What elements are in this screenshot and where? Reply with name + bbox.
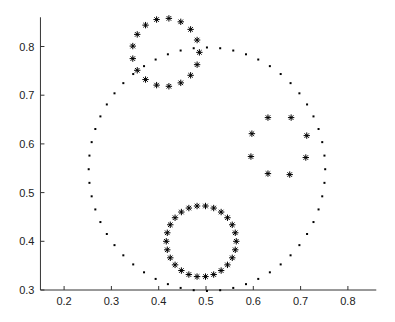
star-marker — [164, 230, 170, 236]
dot-marker — [122, 82, 124, 84]
dot-marker — [167, 283, 169, 285]
star-marker — [210, 271, 216, 277]
star-marker — [153, 16, 159, 22]
star-marker — [196, 49, 202, 55]
star-marker — [232, 230, 238, 236]
star-marker — [166, 83, 172, 89]
dot-marker — [321, 195, 323, 197]
star-marker — [178, 19, 184, 25]
dot-marker — [298, 244, 300, 246]
dot-marker — [99, 221, 101, 223]
star-marker — [229, 222, 235, 228]
star-marker — [233, 238, 239, 244]
dot-marker — [290, 254, 292, 256]
dot-marker — [232, 287, 234, 289]
dot-marker — [106, 103, 108, 105]
y-tick-label: 0.4 — [19, 235, 34, 247]
dot-marker — [312, 221, 314, 223]
star-marker — [178, 209, 184, 215]
x-tick-label: 0.3 — [104, 295, 119, 307]
dot-marker — [206, 46, 208, 48]
star-marker — [166, 15, 172, 21]
star-marker — [194, 37, 200, 43]
y-tick-label: 0.5 — [19, 187, 34, 199]
x-tick-label: 0.2 — [56, 295, 71, 307]
dot-marker — [99, 115, 101, 117]
star-marker — [194, 61, 200, 67]
dot-marker — [324, 168, 326, 170]
dot-marker — [298, 92, 300, 94]
star-marker — [232, 247, 238, 253]
star-marker — [172, 262, 178, 268]
dot-marker — [91, 141, 93, 143]
dot-marker — [113, 244, 115, 246]
dot-marker — [245, 283, 247, 285]
star-marker — [178, 80, 184, 86]
star-marker — [229, 255, 235, 261]
y-tick-label: 0.7 — [19, 89, 34, 101]
x-axis-ticks: 0.20.30.40.50.60.70.8 — [56, 286, 355, 307]
dot-marker — [206, 290, 208, 292]
dot-marker — [257, 59, 259, 61]
x-tick-label: 0.7 — [293, 295, 308, 307]
y-tick-label: 0.6 — [19, 138, 34, 150]
x-tick-label: 0.4 — [151, 295, 166, 307]
star-marker — [142, 22, 148, 28]
dot-marker — [155, 59, 157, 61]
dot-marker — [245, 53, 247, 55]
dot-marker — [269, 271, 271, 273]
star-marker — [304, 132, 310, 138]
dot-marker — [94, 208, 96, 210]
dot-marker — [269, 65, 271, 67]
dot-marker — [193, 47, 195, 49]
star-marker — [265, 170, 271, 176]
dot-marker — [280, 263, 282, 265]
star-marker — [163, 238, 169, 244]
star-marker — [202, 273, 208, 279]
star-marker — [134, 67, 140, 73]
dot-marker — [122, 254, 124, 256]
dot-marker — [280, 73, 282, 75]
star-marker — [186, 205, 192, 211]
dot-marker — [132, 73, 134, 75]
star-marker — [202, 203, 208, 209]
star-marker — [186, 271, 192, 277]
dot-marker — [257, 278, 259, 280]
star-marker — [224, 262, 230, 268]
star-marker — [164, 247, 170, 253]
dot-marker — [88, 155, 90, 157]
dot-marker — [167, 53, 169, 55]
dot-marker — [321, 141, 323, 143]
dot-marker — [312, 115, 314, 117]
dot-marker — [323, 155, 325, 157]
star-marker — [248, 153, 254, 159]
axes — [40, 17, 376, 290]
star-marker — [187, 72, 193, 78]
data-points — [88, 15, 327, 292]
star-marker — [194, 273, 200, 279]
dot-marker — [318, 128, 320, 130]
dot-marker — [88, 168, 90, 170]
dot-marker — [306, 233, 308, 235]
dot-marker — [193, 289, 195, 291]
star-marker — [178, 267, 184, 273]
star-marker — [303, 154, 309, 160]
y-tick-label: 0.8 — [19, 41, 34, 53]
dot-marker — [88, 182, 90, 184]
dot-marker — [106, 233, 108, 235]
star-marker — [194, 203, 200, 209]
star-marker — [167, 222, 173, 228]
dot-marker — [180, 50, 182, 52]
scatter-plot: 0.20.30.40.50.60.70.8 0.30.40.50.60.70.8 — [0, 0, 395, 322]
star-marker — [218, 209, 224, 215]
dot-marker — [219, 289, 221, 291]
star-marker — [134, 31, 140, 37]
star-marker — [130, 43, 136, 49]
dot-marker — [113, 92, 115, 94]
star-marker — [249, 130, 255, 136]
star-marker — [224, 215, 230, 221]
star-marker — [172, 215, 178, 221]
dot-marker — [318, 208, 320, 210]
x-tick-label: 0.6 — [246, 295, 261, 307]
dot-marker — [94, 128, 96, 130]
